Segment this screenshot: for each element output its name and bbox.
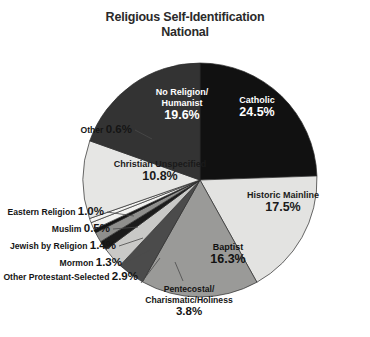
slice-label: Muslim 0.5% <box>52 222 110 234</box>
slice-label: Catholic24.5% <box>239 95 275 119</box>
slice-label: Jewish by Religion 1.4% <box>10 239 116 251</box>
slice-label: Baptist16.3% <box>210 242 245 266</box>
pie-chart-svg: Catholic24.5%Historic Mainline17.5%Bapti… <box>0 0 370 337</box>
pie-chart-figure: Religious Self-Identification National C… <box>0 0 370 337</box>
slice-label: Other Protestant-Selected 2.9% <box>3 270 138 282</box>
slice-label: Other 0.6% <box>80 123 132 135</box>
slice-label: Eastern Religion 1.0% <box>8 205 104 217</box>
pie-slice <box>200 63 317 180</box>
slice-label: Mormon 1.3% <box>60 256 123 268</box>
